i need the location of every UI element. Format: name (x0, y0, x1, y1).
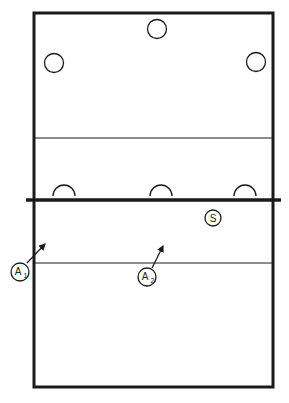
setter-marker: S (205, 210, 221, 226)
attacker-2-marker: A 2 (138, 268, 156, 286)
setter-label: S (210, 213, 217, 224)
blocker-icon (234, 185, 256, 196)
player-circle (45, 54, 64, 73)
blocker-icon (53, 185, 75, 196)
arrow-icon (27, 244, 45, 263)
player-circle (148, 20, 167, 39)
arrow-icon (152, 246, 163, 268)
attacker-2-label: A (142, 271, 149, 282)
attacker-1-subscript: 1 (24, 272, 28, 279)
attacker-1-marker: A 1 (11, 263, 29, 281)
attacker-1-label: A (15, 266, 22, 277)
attacker-2-subscript: 2 (151, 277, 155, 284)
player-circle (247, 53, 266, 72)
volleyball-court-diagram: S A 1 A 2 (0, 0, 289, 403)
blocker-icon (150, 185, 172, 196)
